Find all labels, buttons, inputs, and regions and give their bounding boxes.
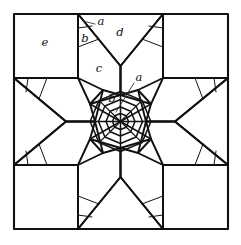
label-b-top: b (81, 31, 88, 45)
subdivision-line (78, 196, 99, 204)
label-c-mid: c (96, 61, 103, 75)
label-e-corner: e (42, 35, 49, 49)
star-point-right (175, 78, 228, 165)
subdivision-line (39, 78, 47, 99)
subdivision-line (195, 78, 203, 99)
subdivision-line (39, 144, 47, 165)
star-point-top (78, 14, 163, 66)
figure-container: a b d c a b e (0, 0, 241, 245)
label-a-top: a (98, 14, 105, 28)
star-point-left (14, 78, 66, 165)
subdivision-line (142, 39, 163, 47)
subdivision-line (195, 144, 203, 165)
rosette-spokes (66, 66, 175, 177)
subdivision-line (142, 196, 163, 204)
label-d-top: d (116, 25, 123, 39)
corner-square-top-right (163, 14, 228, 78)
label-b-center: b (108, 91, 115, 105)
star-point-bottom (78, 177, 163, 229)
region-labels: a b d c a b e (42, 14, 143, 105)
corner-square-bottom-left (14, 165, 78, 229)
label-a-center: a (136, 70, 143, 84)
tiling-diagram: a b d c a b e (0, 0, 241, 245)
corner-square-bottom-right (163, 165, 228, 229)
